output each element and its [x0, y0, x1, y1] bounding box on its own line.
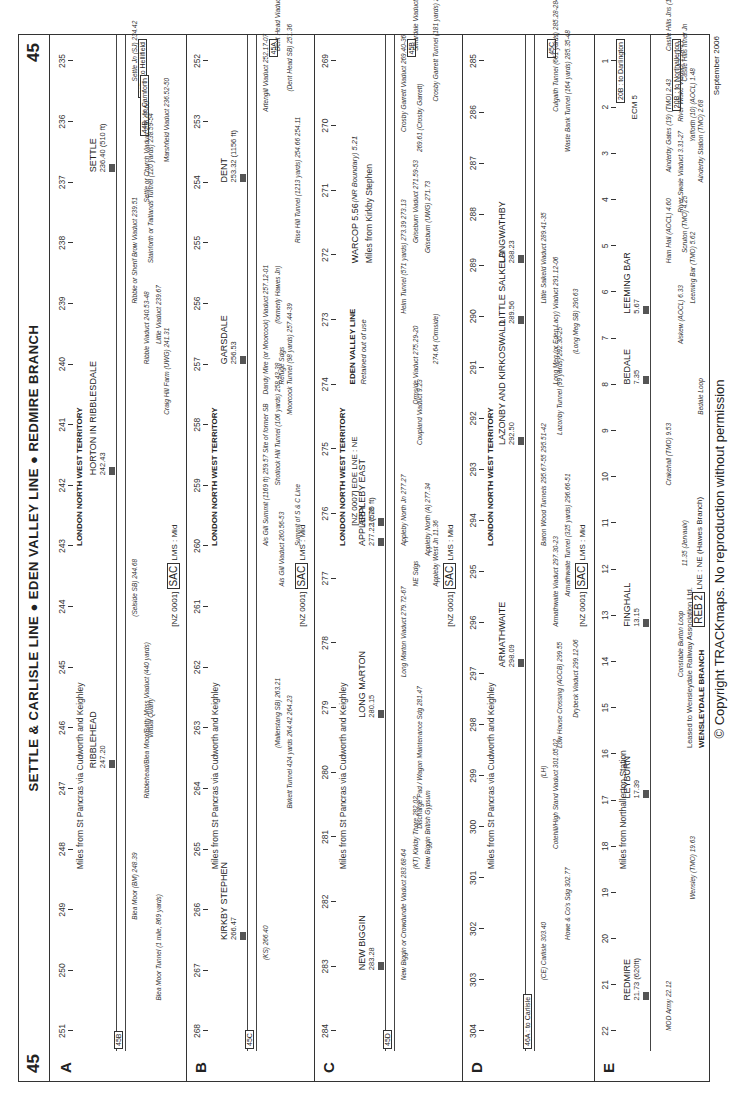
milepost: 10: [600, 465, 616, 489]
milepost: 3: [600, 141, 616, 165]
milepost: 1: [600, 49, 616, 73]
page-title: SETTLE & CARLISLE LINE ● EDEN VALLEY LIN…: [26, 35, 41, 1081]
connector-left[interactable]: 46A : to Carlisle: [523, 994, 532, 1049]
milepost: 244: [57, 595, 73, 619]
station-name: LAZONBY AND KIRKOSWALD: [497, 320, 507, 445]
feature-label: Ais Gill Summit (1169 ft) 259.57 Site of…: [261, 403, 270, 546]
station-name: KIRKBY STEPHEN: [219, 862, 229, 940]
milepost: 14: [600, 649, 616, 673]
feature-label: Culgaith Tunnel (661 yards) 285.28-284.7…: [551, 0, 560, 112]
elr-code: [NZ 0001] SAC LMS : Mid: [576, 525, 587, 627]
strip-c: C284283282281280279278277276275274273272…: [314, 35, 463, 1081]
station-name: NEW BIGGIN: [357, 915, 367, 970]
track-up: [525, 35, 526, 1051]
edition-date: September 2006: [712, 36, 721, 95]
track-up: [247, 35, 248, 1051]
platform: [643, 306, 649, 314]
milepost: 260: [192, 534, 208, 558]
feature-label: Ainderby Station (TMO) 2.68: [696, 100, 705, 183]
eden-miles-note: Miles from Kirkby Stephen: [364, 164, 374, 263]
territory-label: LONDON NORTH WEST TERRITORY: [338, 407, 347, 546]
station-name: REDMIRE: [622, 959, 632, 1001]
feature-label: Crosby Garrett Tunnel (181 yards) 269.08…: [431, 0, 440, 102]
elr-badge: SAC: [443, 563, 456, 590]
feature-label: Ham Hall (AOCL) 4.60: [664, 198, 673, 263]
feature-label: (CE) Carlisle 303.40: [539, 922, 548, 981]
connector-top[interactable]: 20B : to Darlington: [616, 39, 625, 103]
feature-label: Castle Hills Inner Jn: [680, 24, 689, 82]
station-name: HORTON IN RIBBLESDALE: [88, 361, 98, 475]
map-frame: 45 SETTLE & CARLISLE LINE ● EDEN VALLEY …: [18, 34, 710, 1082]
nr-boundary: (NR Boundary) 5.21: [350, 136, 359, 203]
milepost: 284: [320, 1019, 336, 1043]
milepost: 292: [468, 406, 484, 430]
station-mileage: 247.20: [98, 745, 107, 768]
milepost: 246: [57, 716, 73, 740]
connector-left[interactable]: 45D: [383, 1030, 392, 1049]
milepost: 295: [468, 560, 484, 584]
track-down: [394, 35, 395, 1051]
station-name: GARSDALE: [219, 315, 229, 364]
feature-label: NE Sdgs: [411, 561, 420, 587]
station-mileage: 13.15: [632, 608, 641, 627]
feature-label: Armathwaite Viaduct 297.30-23: [551, 536, 560, 627]
milepost: 15: [600, 696, 616, 720]
feature-label: Settle Jn (SJ) 234.42: [130, 21, 139, 82]
milepost: 269: [320, 49, 336, 73]
milepost: 19: [600, 880, 616, 904]
feature-label: MOD Army 22.12: [664, 981, 673, 1031]
territory-label: LONDON NORTH WEST TERRITORY: [75, 407, 84, 546]
connector-left[interactable]: 45C: [245, 1030, 254, 1049]
feature-label: Ribble or Sherif Brow Viaduct 239.51: [130, 197, 139, 303]
milepost: 293: [468, 457, 484, 481]
feature-label: Helm Tunnel (571 yards) 273.39 273.13: [399, 199, 408, 313]
milepost: 282: [320, 890, 336, 914]
elr-badge: SAC: [575, 563, 588, 590]
feature-label: Dandy Mire (or Moorcock) Viaduct 257.12-…: [261, 265, 270, 395]
milepost: 6: [600, 280, 616, 304]
milepost: 249: [57, 898, 73, 922]
platform: [518, 437, 524, 445]
milepost: 278: [320, 631, 336, 655]
milepost: 12: [600, 557, 616, 581]
station-mileage: 292.50: [507, 422, 516, 445]
milepost: 285: [468, 49, 484, 73]
milepost: 250: [57, 958, 73, 982]
territory-label: LONDON NORTH WEST TERRITORY: [486, 407, 495, 546]
milepost: 298: [468, 713, 484, 737]
platform: [643, 993, 649, 1001]
elr-badge: SAC: [167, 563, 180, 590]
milepost: 21: [600, 973, 616, 997]
page-number-right: 45: [24, 43, 44, 62]
feature-label: Ais Gill Viaduct 260.56-53: [277, 512, 286, 587]
milepost: 257: [192, 352, 208, 376]
station-mileage: 5.67: [632, 299, 641, 314]
milepost: 272: [320, 243, 336, 267]
strip-e: E22212019181716151413121110987654321Mile…: [594, 35, 711, 1081]
station-mileage: 266.47: [229, 917, 238, 940]
feature-label: River Swale Viaduct 3.31-27: [676, 131, 685, 213]
strip-letter: B: [192, 1062, 209, 1073]
station-name: LEYBURN: [622, 756, 632, 799]
feature-label: (formerly Hawes Jn): [273, 266, 282, 324]
platform: [240, 356, 246, 364]
milepost: 259: [192, 473, 208, 497]
feature-label: Discharge Pad / Wagon Maintenance Sdg 28…: [415, 686, 424, 829]
track-up: [116, 35, 117, 1051]
milepost: 235: [57, 49, 73, 73]
strip-d: D304303302301300299298297296295294293292…: [462, 35, 595, 1081]
milepost: 254: [192, 170, 208, 194]
milepost: 265: [192, 837, 208, 861]
connector-left[interactable]: 45B: [114, 1031, 123, 1049]
feature-label: Blea Moor Tunnel (1 mile, 869 yards): [154, 894, 163, 1000]
milepost: 274: [320, 372, 336, 396]
milepost: 239: [57, 292, 73, 316]
station-name: APPLEBY EAST: [357, 459, 367, 526]
feature-label: Rise Hill Tunnel (1213 yards) 254.66 254…: [293, 117, 302, 243]
feature-label: Refuge Sdgs: [277, 347, 286, 385]
feature-label: Summit of S & C Line: [293, 484, 302, 546]
ecm-code: ECM 5: [630, 95, 639, 119]
feature-label: Settle or Church Viaduct 236.67-60: [142, 101, 151, 202]
feature-label: Little Salkeld Viaduct 289.41-35: [539, 212, 548, 303]
milepost: 270: [320, 114, 336, 138]
